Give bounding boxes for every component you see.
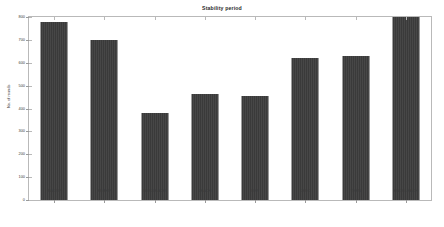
bar (41, 22, 68, 200)
bar (342, 56, 369, 200)
x-axis-tick-top (54, 17, 55, 20)
y-axis-tick-label: 200 (19, 152, 26, 156)
x-axis-tick-top (155, 17, 156, 20)
x-axis-tick-top (305, 17, 306, 20)
x-axis-tick (205, 200, 206, 203)
x-axis-tick (356, 200, 357, 203)
y-axis-tick-inner (29, 17, 32, 18)
x-axis-tick (255, 200, 256, 203)
y-axis-tick-inner (29, 63, 32, 64)
x-axis-tick-top (205, 17, 206, 20)
x-axis-tick (305, 200, 306, 203)
bar (141, 113, 168, 200)
chart-title: Stability period (0, 5, 444, 12)
x-axis-tick-label: MODLEACH (144, 188, 166, 193)
x-axis-tick-label: LEACH (198, 188, 211, 193)
y-axis-tick-inner (29, 177, 32, 178)
bar (292, 58, 319, 200)
y-axis-tick-inner (29, 109, 32, 110)
y-axis-tick-label: 700 (19, 38, 26, 42)
y-axis-tick-inner (29, 200, 32, 201)
bar (242, 96, 269, 200)
bar (191, 94, 218, 200)
x-axis-tick-label: TEEN (350, 188, 360, 193)
y-axis-tick-inner (29, 86, 32, 87)
x-axis-tick-label: DEEC (300, 188, 311, 193)
x-axis-tick-label: ENODLEACH (394, 188, 418, 193)
y-axis-tick-label: 800 (19, 15, 26, 19)
x-axis-tick-label: REP (251, 188, 259, 193)
y-axis-tick-inner (29, 131, 32, 132)
x-axis-tick (155, 200, 156, 203)
x-axis-tick-top (104, 17, 105, 20)
figure-canvas: Stability period No. of rounds 010020030… (0, 0, 444, 227)
y-axis-tick-inner (29, 40, 32, 41)
y-axis-label: No. of rounds (7, 85, 11, 108)
x-axis-tick-top (406, 17, 407, 20)
y-axis-tick-label: 100 (19, 175, 26, 179)
y-axis-tick-label: 600 (19, 61, 26, 65)
plot-area: 0100200300400500600700800 (28, 16, 432, 201)
y-axis-tick-label: 500 (19, 84, 26, 88)
bar (392, 17, 419, 200)
y-axis-tick-inner (29, 154, 32, 155)
bar (91, 40, 118, 200)
x-axis-tick-label: IEACRP (47, 188, 62, 193)
y-axis-tick-label: 300 (19, 129, 26, 133)
y-axis-tick-label: 400 (19, 107, 26, 111)
x-axis-tick (54, 200, 55, 203)
x-axis-tick (104, 200, 105, 203)
x-axis-tick (406, 200, 407, 203)
x-axis-tick-top (356, 17, 357, 20)
x-axis-tick-label: EEAHP (98, 188, 111, 193)
y-axis-tick-label: 0 (23, 198, 25, 202)
x-axis-tick-top (255, 17, 256, 20)
plot-inner: 0100200300400500600700800 (29, 17, 431, 200)
